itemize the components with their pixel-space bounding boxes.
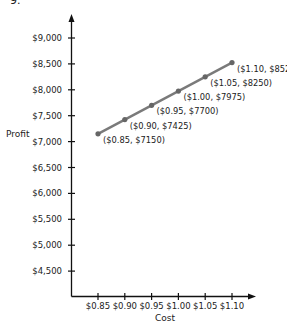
- data-point-label: ($1.05, $8250): [210, 78, 272, 88]
- y-axis-arrow-icon: [69, 14, 75, 22]
- data-point: [122, 117, 127, 122]
- data-point-label: ($1.00, $7975): [183, 92, 245, 102]
- x-tick-label: $1.10: [220, 301, 244, 311]
- x-tick-label: $0.90: [113, 301, 137, 311]
- y-tick-label: $8,500: [32, 59, 62, 69]
- y-tick-label: $5,000: [32, 240, 62, 250]
- data-point: [95, 131, 100, 136]
- y-tick-label: $6,500: [32, 163, 62, 173]
- x-tick-label: $1.00: [166, 301, 190, 311]
- y-tick-label: $8,000: [32, 85, 62, 95]
- y-tick-label: $5,500: [32, 214, 62, 224]
- x-axis-arrow-icon: [248, 294, 256, 300]
- data-point: [203, 74, 208, 79]
- data-point: [229, 60, 234, 65]
- data-point-label: ($1.10, $8525): [237, 64, 287, 74]
- y-tick-label: $9,000: [32, 33, 62, 43]
- y-tick-label: $4,500: [32, 266, 62, 276]
- y-axis-ticks: $9,000$8,500$8,000$7,500$7,000$6,500$6,0…: [32, 33, 75, 276]
- data-point-label: ($0.90, $7425): [130, 121, 192, 131]
- x-axis-ticks: $0.85$0.90$0.95$1.00$1.05$1.10: [86, 293, 244, 311]
- axes: [69, 14, 257, 300]
- data-point: [149, 103, 154, 108]
- data-point-label: ($0.95, $7700): [157, 106, 219, 116]
- x-tick-label: $0.85: [86, 301, 110, 311]
- x-tick-label: $0.95: [139, 301, 163, 311]
- y-tick-label: $7,000: [32, 137, 62, 147]
- x-axis-title: Cost: [155, 313, 175, 323]
- x-tick-label: $1.05: [193, 301, 217, 311]
- data-point: [176, 88, 181, 93]
- y-axis-title: Profit: [6, 129, 30, 139]
- data-point-label: ($0.85, $7150): [103, 135, 165, 145]
- line-chart: $9,000$8,500$8,000$7,500$7,000$6,500$6,0…: [0, 0, 287, 330]
- y-tick-label: $7,500: [32, 111, 62, 121]
- data-series: ($0.85, $7150)($0.90, $7425)($0.95, $770…: [95, 60, 287, 145]
- y-tick-label: $6,000: [32, 188, 62, 198]
